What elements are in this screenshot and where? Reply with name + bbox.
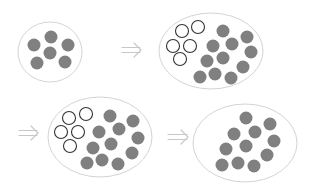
filled-dot [217,25,230,38]
cell-stage-diagram [0,0,315,195]
filled-dot [220,143,233,156]
filled-dot [113,123,126,136]
filled-dot [261,149,274,162]
open-dot [192,21,205,34]
stage-3-panel [48,97,152,177]
filled-dot [194,71,207,84]
open-dot [80,108,93,121]
stage-4-panel [193,104,297,182]
stage-2-panel [159,13,263,89]
filled-dot [127,115,140,128]
filled-dot [93,126,106,139]
filled-dot [268,135,281,148]
filled-dot [96,154,109,167]
filled-dot [44,47,57,60]
arrow-3-to-4-icon [168,130,188,144]
open-dot [64,140,77,153]
filled-dot [62,39,75,52]
filled-dot [104,110,117,123]
filled-dot [240,140,253,153]
arrow-1-to-2-icon [122,43,141,57]
filled-dot [105,138,118,151]
filled-dot [228,128,241,141]
filled-dot [237,61,250,74]
filled-dot [81,157,94,170]
open-dot [167,40,180,53]
filled-dot [31,57,44,70]
filled-dot [201,55,214,68]
arrow-2-to-3-icon [19,126,38,140]
open-dot [63,112,76,125]
filled-dot [226,38,239,51]
filled-dot [217,52,230,65]
filled-dot [87,142,100,155]
stage-1-panel [18,22,82,82]
filled-dot [209,68,222,81]
filled-dot [249,126,262,139]
open-dot [176,25,189,38]
filled-dot [264,118,277,131]
open-dot [184,40,197,53]
filled-dot [216,159,229,172]
filled-dot [132,132,145,145]
filled-dot [28,39,41,52]
filled-dot [240,112,253,125]
filled-dot [245,46,258,59]
open-dot [174,53,187,66]
filled-dot [126,147,139,160]
open-dot [55,126,68,139]
filled-dot [45,31,58,44]
filled-dot [59,56,72,69]
filled-dot [112,158,125,171]
filled-dot [207,40,220,53]
open-dot [72,126,85,139]
filled-dot [225,72,238,85]
filled-dot [232,157,245,170]
filled-dot [241,31,254,44]
filled-dot [248,160,261,173]
